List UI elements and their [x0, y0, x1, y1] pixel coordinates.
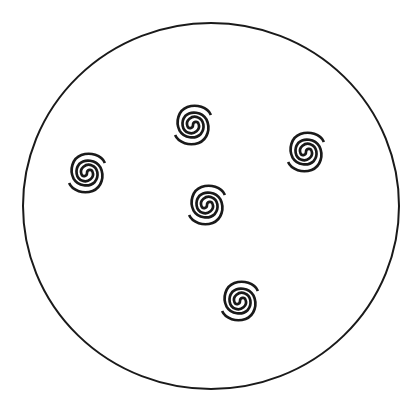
spiral-group [69, 106, 324, 320]
spiral-icon [175, 106, 211, 144]
spiral-icon [69, 154, 105, 192]
spiral-icon [288, 133, 324, 171]
spiral-icon [222, 282, 258, 320]
diagram-canvas [0, 0, 417, 401]
spiral-icon [189, 186, 225, 224]
boundary-circle [23, 23, 399, 389]
